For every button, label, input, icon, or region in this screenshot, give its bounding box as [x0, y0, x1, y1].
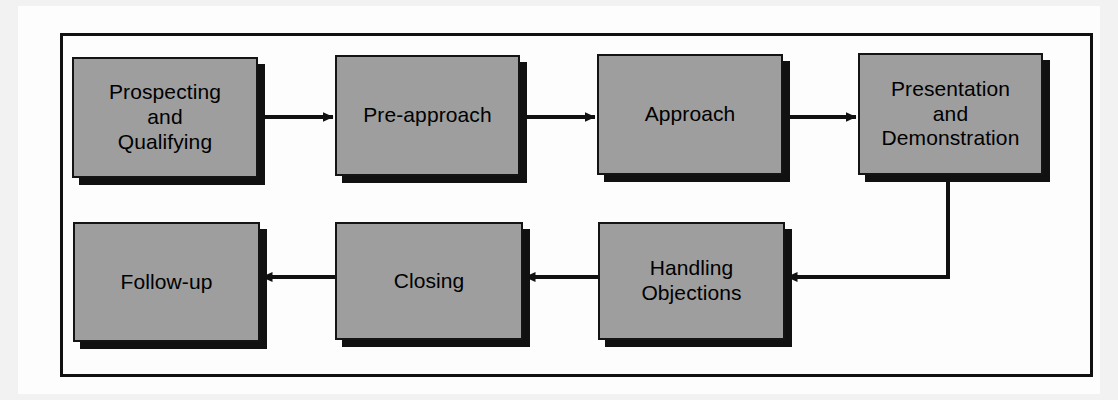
- flowchart-figure: Prospecting and Qualifying Pre-approach …: [0, 0, 1118, 400]
- node-approach[interactable]: Approach: [597, 54, 783, 175]
- node-follow-up[interactable]: Follow-up: [73, 222, 260, 342]
- node-closing[interactable]: Closing: [335, 222, 523, 340]
- node-presentation-and-demonstration[interactable]: Presentation and Demonstration: [858, 53, 1043, 175]
- node-label: Approach: [639, 102, 742, 127]
- node-handling-objections[interactable]: Handling Objections: [598, 222, 785, 340]
- node-label: Closing: [388, 269, 471, 294]
- node-label: Handling Objections: [635, 256, 747, 306]
- diagram-canvas: Prospecting and Qualifying Pre-approach …: [0, 0, 1118, 400]
- node-pre-approach[interactable]: Pre-approach: [335, 55, 520, 176]
- node-prospecting-and-qualifying[interactable]: Prospecting and Qualifying: [72, 57, 258, 178]
- node-label: Prospecting and Qualifying: [103, 80, 227, 154]
- node-label: Follow-up: [115, 270, 219, 295]
- node-label: Presentation and Demonstration: [876, 77, 1026, 151]
- node-label: Pre-approach: [357, 103, 497, 128]
- edge-presentation-to-handling-objections: [787, 175, 948, 277]
